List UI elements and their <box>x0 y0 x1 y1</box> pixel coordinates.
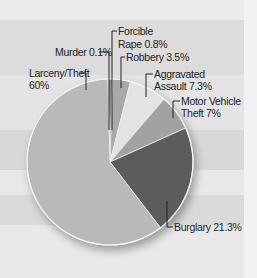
pie-chart: Murder 0.1% Forcible Rape 0.8% Robbery 3… <box>0 0 257 278</box>
label-larceny-line1: Larceny/Theft <box>29 67 90 79</box>
label-aggravated-line1: Aggravated <box>154 68 205 80</box>
label-larceny-line2: 60% <box>29 79 49 91</box>
pie-slices <box>27 79 193 245</box>
label-murder: Murder 0.1% <box>55 46 112 58</box>
label-burglary: Burglary 21.3% <box>174 221 242 233</box>
label-motor-vehicle-line1: Motor Vehicle <box>181 95 241 107</box>
label-rape-line2: Rape 0.8% <box>118 38 167 50</box>
label-aggravated-line2: Assault 7.3% <box>154 80 212 92</box>
label-rape-line1: Forcible <box>118 25 153 37</box>
label-motor-vehicle-line2: Theft 7% <box>181 107 221 119</box>
label-robbery: Robbery 3.5% <box>126 51 189 63</box>
